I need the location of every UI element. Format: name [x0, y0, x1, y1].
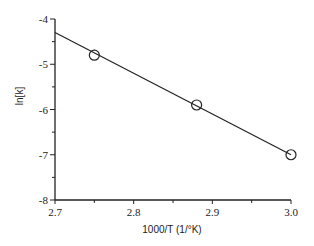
x-tick-label: 2.7	[48, 206, 62, 218]
data-point-marker	[192, 100, 202, 110]
y-tick-label: -6	[39, 104, 49, 116]
fit-line	[55, 33, 291, 155]
x-tick-label: 2.8	[127, 206, 141, 218]
x-tick-label: 3.0	[284, 206, 298, 218]
arrhenius-plot: -4-5-6-7-82.72.82.93.0 1000/T (1/°K) ln[…	[0, 0, 314, 246]
y-tick-label: -5	[39, 58, 49, 70]
y-axis-label: ln[k]	[14, 87, 25, 106]
fit-line-segment	[55, 33, 291, 155]
y-tick-label: -7	[39, 149, 49, 161]
x-tick-label: 2.9	[205, 206, 219, 218]
y-tick-label: -8	[39, 194, 49, 206]
x-axis-label: 1000/T (1/°K)	[142, 224, 201, 235]
y-tick-label: -4	[39, 13, 49, 25]
